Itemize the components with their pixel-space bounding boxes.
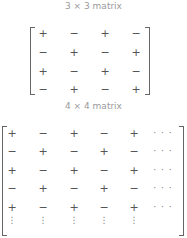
matrix-cell: + [67,47,81,58]
matrix-cell: − [36,84,50,95]
caption-bottom: 4 × 4 matrix [0,101,187,111]
matrix-cell: − [97,128,111,139]
matrix-cell: − [5,183,19,194]
matrix-cell: + [97,146,111,157]
matrix-cell: + [67,84,81,95]
matrix-cell: − [129,66,143,77]
matrix-cell: · · · [151,183,175,194]
matrix-cell: − [36,165,50,176]
matrix-cell: + [36,66,50,77]
matrix-cell: + [67,128,81,139]
vertical-ellipsis: ⋮ [36,218,50,222]
vertical-ellipsis: ⋮ [127,218,141,222]
matrix-cell: + [5,165,19,176]
matrix-cell: − [127,146,141,157]
matrix-cell: + [5,128,19,139]
matrix-cell: − [67,146,81,157]
vertical-ellipsis: ⋮ [5,218,19,222]
matrix-cell: · · · [151,165,175,176]
matrix-cell: − [67,183,81,194]
right-bracket [179,126,184,236]
matrix-cell: + [129,84,143,95]
caption-top: 3 × 3 matrix [0,1,187,11]
left-bracket [30,27,35,95]
matrix-cell: − [67,66,81,77]
matrix-cell: − [36,47,50,58]
matrix-cell: − [67,28,81,39]
matrix-cell: · · · [151,146,175,157]
matrix-cell: − [97,165,111,176]
vertical-ellipsis: ⋮ [67,218,81,222]
matrix-cell: − [36,202,50,213]
matrix-cell: + [36,146,50,157]
matrix-cell: − [36,128,50,139]
matrix-cell: − [98,84,112,95]
matrix-cell: · · · [151,202,175,213]
matrix-cell: · · · [151,128,175,139]
matrix-cell: − [127,183,141,194]
matrix-cell: + [36,28,50,39]
matrix-cell: − [129,28,143,39]
matrix-cell: + [97,183,111,194]
matrix-cell: + [67,165,81,176]
matrix-cell: − [98,47,112,58]
matrix-cell: + [127,165,141,176]
right-bracket [145,27,150,95]
matrix-cell: − [5,146,19,157]
matrix-cell: + [67,202,81,213]
matrix-cell: − [97,202,111,213]
matrix-cell: + [5,202,19,213]
matrix-cell: + [36,183,50,194]
matrix-cell: + [127,202,141,213]
vertical-ellipsis: ⋮ [97,218,111,222]
matrix-cell: + [129,47,143,58]
matrix-cell: + [98,66,112,77]
matrix-cell: + [127,128,141,139]
matrix-cell: + [98,28,112,39]
